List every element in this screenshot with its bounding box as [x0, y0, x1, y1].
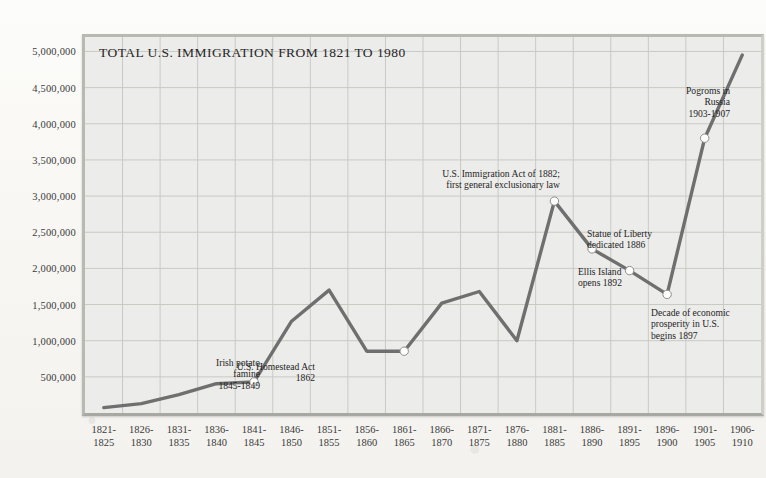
y-axis-tick-label: 1,000,000 [2, 335, 76, 346]
y-axis-tick-label: 5,000,000 [2, 46, 76, 57]
data-point-marker[interactable] [400, 347, 408, 355]
data-point-marker[interactable] [663, 290, 671, 298]
data-point-marker[interactable] [701, 134, 709, 142]
annotation-ellis-island: Ellis Islandopens 1892 [578, 266, 698, 289]
y-axis-labels: 5,000,0004,500,0004,000,0003,500,0003,00… [0, 0, 76, 478]
x-axis-labels: 1821-18251826-18301831-18351836-18401841… [0, 424, 766, 464]
annotation-economic-prosperity: Decade of economicprosperity in U.S.begi… [651, 307, 766, 341]
y-axis-tick-label: 3,000,000 [2, 191, 76, 202]
y-axis-tick-label: 500,000 [2, 371, 76, 382]
y-axis-tick-label: 1,500,000 [2, 299, 76, 310]
data-point-marker[interactable] [550, 197, 558, 205]
y-axis-tick-label: 2,500,000 [2, 227, 76, 238]
annotation-statue-of-liberty: Statue of Libertydedicated 1886 [587, 228, 727, 251]
annotation-pogroms-in-russia: Pogroms inRussia1903-1907 [610, 85, 730, 119]
chart-title: TOTAL U.S. IMMIGRATION FROM 1821 TO 1980 [99, 45, 406, 61]
y-axis-tick-label: 4,000,000 [2, 118, 76, 129]
y-axis-tick-label: 4,500,000 [2, 82, 76, 93]
annotation-us-homestead-act: U.S. Homestead Act1862 [195, 361, 315, 384]
immigration-line-chart: 5,000,0004,500,0004,000,0003,500,0003,00… [0, 0, 766, 478]
y-axis-tick-label: 3,500,000 [2, 154, 76, 165]
y-axis-tick-label: 2,000,000 [2, 263, 76, 274]
annotation-immigration-act-1882: U.S. Immigration Act of 1882;first gener… [330, 168, 560, 191]
x-axis-tick-label: 1906-1910 [714, 424, 766, 449]
